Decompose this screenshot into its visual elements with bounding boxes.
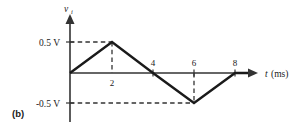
y-axis — [66, 14, 75, 122]
y-tick-label-positive: 0.5 V — [39, 38, 60, 48]
x-axis-arrow-icon — [248, 69, 258, 78]
waveform-chart: v i 0.5 V -0.5 V 2 4 6 8 t (ms) (b) — [0, 0, 298, 131]
y-tick-label-negative: -0.5 V — [36, 99, 60, 109]
figure-panel-b: v i 0.5 V -0.5 V 2 4 6 8 t (ms) (b) — [0, 0, 298, 131]
x-tick-label-4: 4 — [151, 58, 156, 68]
x-axis-variable: t — [265, 69, 268, 79]
x-tick-label-8: 8 — [233, 58, 238, 68]
x-axis-unit: (ms) — [271, 69, 288, 80]
y-axis-arrow-icon — [66, 14, 75, 24]
y-axis-subscript: i — [71, 8, 73, 15]
x-tick-label-2: 2 — [110, 78, 115, 88]
x-tick-label-6: 6 — [192, 58, 197, 68]
y-axis-symbol: v — [64, 4, 69, 14]
panel-label: (b) — [12, 108, 24, 119]
